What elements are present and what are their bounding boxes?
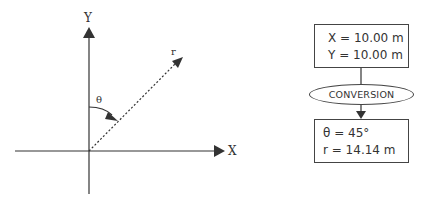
y-axis-label: Y xyxy=(84,12,92,24)
r-label: r xyxy=(171,47,176,57)
y-axis-arrow-icon xyxy=(83,27,95,38)
input-y-value: Y = 10.00 m xyxy=(328,48,403,62)
input-x-value: X = 10.00 m xyxy=(328,31,404,45)
flow-arrow-icon xyxy=(356,111,366,119)
x-axis-label: X xyxy=(228,145,237,157)
conversion-process: CONVERSION xyxy=(309,84,414,105)
output-r-value: r = 14.14 m xyxy=(323,143,395,157)
output-theta-value: θ = 45° xyxy=(323,126,369,140)
r-vector xyxy=(89,63,176,151)
input-box: X = 10.00 m Y = 10.00 m xyxy=(314,24,409,68)
theta-label: θ xyxy=(96,95,102,105)
r-vector-arrow-icon xyxy=(172,57,183,68)
theta-arc-arrow-icon xyxy=(105,112,118,121)
x-axis-arrow-icon xyxy=(214,145,225,157)
output-box: θ = 45° r = 14.14 m xyxy=(314,119,409,163)
conversion-label: CONVERSION xyxy=(329,89,395,100)
